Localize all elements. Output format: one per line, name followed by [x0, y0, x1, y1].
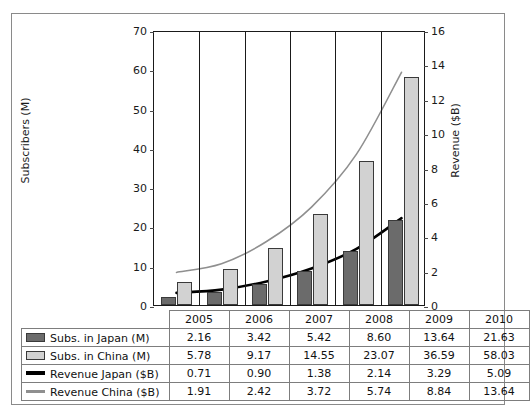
right-axis-tick	[424, 170, 428, 171]
right-axis-tick	[424, 66, 428, 67]
table-cell-2009: 3.29	[409, 365, 469, 383]
data-table: 200520062007200820092010Subs. in Japan (…	[21, 310, 530, 401]
left-axis-tick	[150, 307, 154, 308]
bar-japan-2005	[161, 297, 176, 305]
right-axis-tick	[424, 32, 428, 33]
table-cell-2008: 5.74	[349, 383, 409, 401]
category-separator	[381, 32, 382, 305]
bar-china-2009	[359, 161, 374, 305]
legend-label: Revenue China ($B)	[50, 385, 159, 398]
table-cell-2008: 8.60	[349, 329, 409, 347]
left-axis-tick-label: 30	[133, 183, 147, 194]
right-axis-tick-label: 8	[431, 164, 438, 175]
table-cell-2009: 13.64	[409, 329, 469, 347]
bar-japan-2008	[297, 271, 312, 305]
left-axis-tick	[150, 71, 154, 72]
figure-border: Subscribers (M) Revenue ($B) 01020304050…	[11, 13, 505, 405]
left-axis-tick	[150, 32, 154, 33]
right-axis-tick	[424, 101, 428, 102]
left-axis-tick-label: 70	[133, 26, 147, 37]
right-axis-tick-label: 2	[431, 267, 438, 278]
left-axis-tick-label: 40	[133, 144, 147, 155]
table-cell-2005: 0.71	[169, 365, 229, 383]
legend-entry: Subs. in China (M)	[22, 347, 170, 365]
bar-china-2008	[313, 214, 328, 305]
plot-frame: 0102030405060700246810121416	[153, 31, 425, 306]
left-axis-tick	[150, 228, 154, 229]
plot-area: Subscribers (M) Revenue ($B) 01020304050…	[12, 14, 506, 310]
legend-label: Subs. in China (M)	[50, 349, 150, 362]
right-axis-title: Revenue ($B)	[449, 76, 462, 206]
table-row: Subs. in China (M)5.789.1714.5523.0736.5…	[22, 347, 530, 365]
category-separator	[290, 32, 291, 305]
category-separator	[199, 32, 200, 305]
table-cell-2010: 58.03	[469, 347, 529, 365]
table-cell-2007: 3.72	[289, 383, 349, 401]
category-separator	[245, 32, 246, 305]
bar-china-2010	[404, 77, 419, 305]
table-cell-2005: 5.78	[169, 347, 229, 365]
table-column-header-2006: 2006	[229, 311, 289, 329]
left-axis-tick-label: 20	[133, 222, 147, 233]
right-axis-tick	[424, 135, 428, 136]
table-cell-2008: 2.14	[349, 365, 409, 383]
left-axis-tick	[150, 268, 154, 269]
table-column-header-2007: 2007	[289, 311, 349, 329]
table-cell-2010: 5.09	[469, 365, 529, 383]
left-axis-tick	[150, 189, 154, 190]
table-row: Subs. in Japan (M)2.163.425.428.6013.642…	[22, 329, 530, 347]
light-bar-swatch	[26, 351, 45, 360]
left-axis-tick-label: 60	[133, 65, 147, 76]
table-cell-2010: 13.64	[469, 383, 529, 401]
right-axis-tick	[424, 273, 428, 274]
right-axis-tick-label: 12	[431, 95, 445, 106]
table-cell-2009: 36.59	[409, 347, 469, 365]
black-line-swatch	[26, 371, 45, 375]
category-separator	[335, 32, 336, 305]
bar-japan-2007	[252, 284, 267, 305]
table-header-row: 200520062007200820092010	[22, 311, 530, 329]
bar-china-2005	[177, 282, 192, 305]
table-cell-2006: 9.17	[229, 347, 289, 365]
table-cell-2005: 2.16	[169, 329, 229, 347]
table-column-header-2009: 2009	[409, 311, 469, 329]
left-axis-tick-label: 10	[133, 262, 147, 273]
table-cell-2005: 1.91	[169, 383, 229, 401]
left-axis-title: Subscribers (M)	[19, 76, 32, 206]
legend-entry: Subs. in Japan (M)	[22, 329, 170, 347]
running-header	[22, 0, 482, 8]
table-cell-2009: 8.84	[409, 383, 469, 401]
legend-label: Revenue Japan ($B)	[50, 367, 159, 380]
right-axis-tick	[424, 238, 428, 239]
bar-china-2006	[223, 269, 238, 305]
bar-japan-2006	[207, 292, 222, 305]
table-row: Revenue Japan ($B)0.710.901.382.143.295.…	[22, 365, 530, 383]
table-corner-cell	[22, 311, 170, 329]
right-axis-tick-label: 16	[431, 26, 445, 37]
table-cell-2007: 1.38	[289, 365, 349, 383]
right-axis-tick	[424, 204, 428, 205]
table-cell-2007: 14.55	[289, 347, 349, 365]
legend-entry: Revenue China ($B)	[22, 383, 170, 401]
data-table-legend: 200520062007200820092010Subs. in Japan (…	[21, 310, 497, 396]
gray-line-swatch	[26, 390, 45, 393]
bar-china-2007	[268, 248, 283, 305]
dark-bar-swatch	[26, 333, 45, 342]
legend-entry: Revenue Japan ($B)	[22, 365, 170, 383]
table-column-header-2010: 2010	[469, 311, 529, 329]
table-cell-2008: 23.07	[349, 347, 409, 365]
bar-japan-2009	[343, 251, 358, 305]
legend-label: Subs. in Japan (M)	[50, 331, 149, 344]
bar-japan-2010	[388, 220, 403, 305]
right-axis-tick-label: 6	[431, 198, 438, 209]
left-axis-tick	[150, 150, 154, 151]
table-cell-2007: 5.42	[289, 329, 349, 347]
left-axis-tick	[150, 111, 154, 112]
left-axis-tick-label: 50	[133, 105, 147, 116]
right-axis-tick-label: 4	[431, 232, 438, 243]
table-cell-2006: 2.42	[229, 383, 289, 401]
right-axis-tick	[424, 307, 428, 308]
table-cell-2006: 0.90	[229, 365, 289, 383]
table-cell-2010: 21.63	[469, 329, 529, 347]
